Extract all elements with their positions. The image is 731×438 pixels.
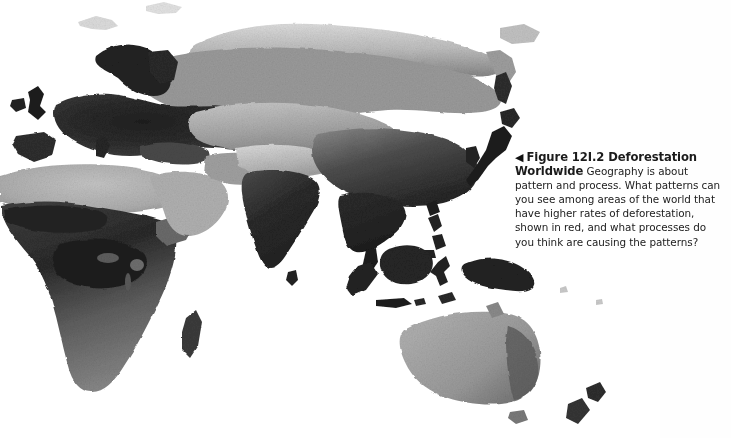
lake-tanganyika <box>125 273 131 291</box>
figure-page: ◀Figure 12I.2 Deforestation Worldwide Ge… <box>0 0 731 438</box>
caption-body: Geography is about pattern and process. … <box>515 165 720 247</box>
left-triangle-icon: ◀ <box>515 151 523 164</box>
caption-paragraph: ◀Figure 12I.2 Deforestation Worldwide Ge… <box>515 150 727 249</box>
figure-caption: ◀Figure 12I.2 Deforestation Worldwide Ge… <box>515 150 727 249</box>
lake-chad <box>97 253 119 263</box>
lake-victoria <box>130 259 144 271</box>
